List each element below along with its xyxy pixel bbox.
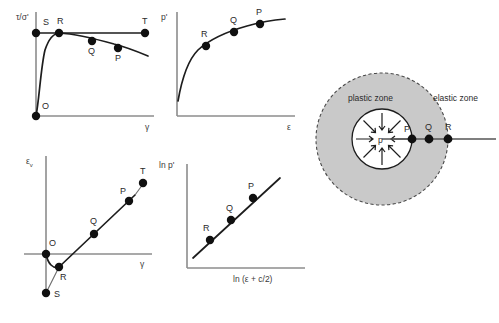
point-label-O: O bbox=[42, 101, 49, 111]
point-label-P: P bbox=[115, 53, 121, 63]
x-axis-label: ln (ε + c/2) bbox=[233, 274, 273, 284]
data-point-O bbox=[32, 112, 40, 120]
y-axis-label: τ/σ' bbox=[16, 12, 29, 22]
radial-point-label-P: P bbox=[404, 124, 410, 134]
point-label-P: P bbox=[256, 7, 262, 17]
point-label-R: R bbox=[60, 272, 67, 282]
point-label-T: T bbox=[140, 166, 146, 176]
point-label-P: P bbox=[248, 181, 254, 191]
log-log-straight-line bbox=[193, 178, 280, 258]
y-axis-label: p' bbox=[161, 12, 168, 22]
data-point-T bbox=[139, 179, 147, 187]
figure-root: S R Q P T O τ/σ' γ R Q P p' ε bbox=[0, 0, 499, 323]
point-label-Q: Q bbox=[226, 203, 233, 213]
data-point-Q bbox=[90, 230, 98, 238]
data-point-T bbox=[141, 29, 149, 37]
data-point-S bbox=[42, 289, 50, 297]
dilation-line bbox=[59, 195, 135, 267]
data-point-R bbox=[206, 236, 214, 244]
y-axis-label: εv bbox=[26, 156, 33, 168]
cavity-expansion-schematic: P Q R p plastic zone elastic zone bbox=[310, 60, 499, 250]
data-point-R bbox=[55, 29, 63, 37]
panel-log-mean-stress-vs-log-strain: R Q P ln p' ln (ε + c/2) bbox=[155, 150, 315, 315]
point-label-R: R bbox=[57, 16, 64, 26]
cavity-pressure-label: p bbox=[378, 135, 383, 145]
radial-point-R bbox=[444, 135, 453, 144]
point-label-S: S bbox=[43, 17, 49, 27]
data-point-Q bbox=[227, 216, 235, 224]
radial-point-label-Q: Q bbox=[425, 122, 432, 132]
x-axis-label: γ bbox=[140, 259, 145, 269]
radial-point-P bbox=[408, 135, 417, 144]
data-point-P bbox=[249, 194, 257, 202]
radial-point-Q bbox=[425, 135, 434, 144]
point-label-R: R bbox=[201, 29, 208, 39]
point-label-Q: Q bbox=[90, 216, 97, 226]
data-point-Q bbox=[230, 28, 238, 36]
data-point-S bbox=[32, 29, 40, 37]
data-point-P bbox=[125, 197, 133, 205]
point-label-O: O bbox=[49, 238, 56, 248]
panel-mean-effective-stress-vs-strain: R Q P p' ε bbox=[155, 6, 301, 136]
point-label-R: R bbox=[203, 223, 210, 233]
point-label-Q: Q bbox=[230, 15, 237, 25]
x-axis-label: ε bbox=[287, 122, 291, 132]
plastic-zone-label: plastic zone bbox=[348, 93, 393, 103]
point-label-T: T bbox=[142, 16, 148, 26]
point-label-S: S bbox=[54, 289, 60, 299]
x-axis-label: γ bbox=[145, 122, 150, 132]
y-axis-label-subscript: v bbox=[30, 162, 33, 168]
data-point-P bbox=[114, 44, 122, 52]
panel-stress-ratio-vs-shear-strain: S R Q P T O τ/σ' γ bbox=[14, 6, 160, 136]
data-point-O bbox=[42, 250, 50, 258]
data-point-R bbox=[55, 263, 63, 271]
data-point-Q bbox=[88, 37, 96, 45]
point-label-P: P bbox=[120, 186, 126, 196]
data-point-R bbox=[202, 42, 210, 50]
radial-point-label-R: R bbox=[445, 122, 452, 132]
data-point-P bbox=[256, 20, 264, 28]
y-axis-label: ln p' bbox=[159, 160, 175, 170]
point-label-Q: Q bbox=[88, 46, 95, 56]
panel-volumetric-strain-vs-shear-strain: O S R Q P T εv γ bbox=[14, 150, 160, 315]
elastic-zone-label: elastic zone bbox=[433, 93, 478, 103]
